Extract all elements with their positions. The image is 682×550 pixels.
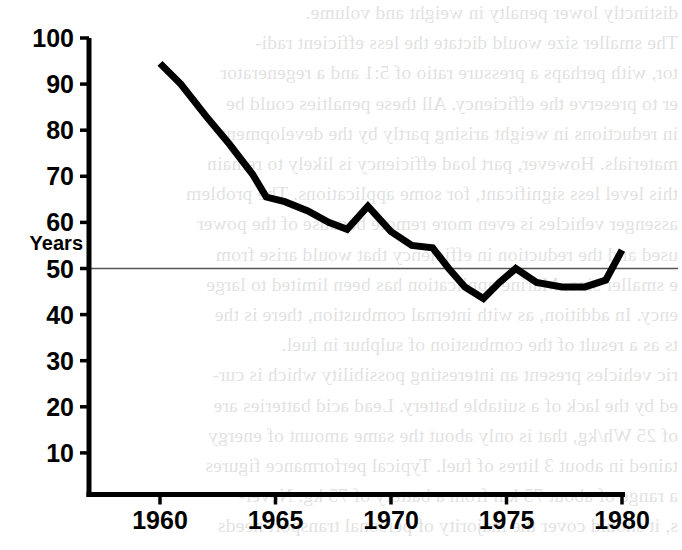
y-tick-label: 30 [46,347,74,375]
x-axis-ticks: 19601965197019751980 [132,495,650,534]
x-tick-label: 1980 [594,506,650,534]
y-tick-label: 90 [46,70,74,98]
x-tick-label: 1970 [363,506,419,534]
line-chart-figure: 102030405060708090100 196019651970197519… [0,0,682,550]
y-axis-title: Years [30,232,83,254]
y-tick-label: 70 [46,162,74,190]
x-tick-label: 1960 [132,506,188,534]
y-tick-label: 10 [46,439,74,467]
chart-canvas: 102030405060708090100 196019651970197519… [0,0,682,550]
y-tick-label: 100 [32,24,74,52]
data-line-series [160,63,622,298]
y-tick-label: 80 [46,116,74,144]
data-series-group [160,63,622,298]
x-tick-label: 1965 [248,506,304,534]
y-tick-label: 20 [46,393,74,421]
y-tick-label: 40 [46,301,74,329]
x-tick-label: 1975 [479,506,535,534]
y-tick-label: 50 [46,255,74,283]
